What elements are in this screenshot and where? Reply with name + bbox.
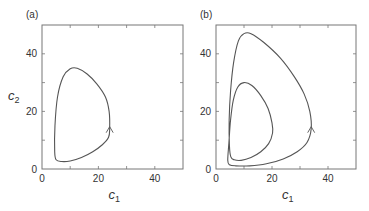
panel-label: (a) [26, 9, 38, 20]
y-tick-label: 0 [31, 164, 37, 175]
x-tick-label: 20 [93, 173, 105, 184]
x-tick-label: 40 [149, 173, 161, 184]
panel-a: (a)0204002040c1c2 [0, 0, 185, 211]
x-tick-label: 20 [266, 173, 278, 184]
y-axis-label: c2 [8, 88, 20, 105]
x-axis-label: c1 [282, 187, 294, 204]
axes-frame [42, 25, 183, 169]
x-tick-label: 0 [39, 173, 45, 184]
phase-plot-b: (b)0204002040c1 [185, 0, 369, 211]
panel-b: (b)0204002040c1 [185, 0, 369, 211]
y-tick-label: 20 [200, 106, 212, 117]
phase-plot-a: (a)0204002040c1c2 [0, 0, 185, 211]
trajectory-curve [55, 68, 110, 162]
panel-label: (b) [200, 9, 212, 20]
y-tick-label: 0 [205, 164, 211, 175]
trajectory-curve [228, 33, 312, 166]
x-axis-label: c1 [109, 187, 121, 204]
y-tick-label: 40 [200, 48, 212, 59]
y-tick-label: 20 [26, 106, 38, 117]
x-tick-label: 40 [322, 173, 334, 184]
y-tick-label: 40 [26, 48, 38, 59]
x-tick-label: 0 [213, 173, 219, 184]
